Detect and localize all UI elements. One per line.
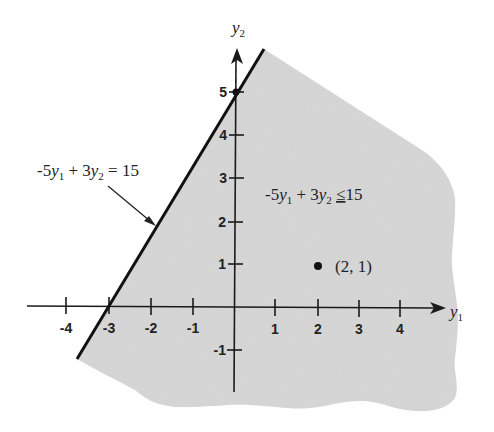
y-tick-label: 1 <box>218 256 226 272</box>
x-tick-label: 2 <box>314 321 322 337</box>
y-axis-label: y2 <box>230 18 245 39</box>
x-tick-label: 3 <box>355 321 363 337</box>
x-tick-label: -3 <box>103 320 116 336</box>
test-point-marker <box>314 262 322 270</box>
y-tick-label: 2 <box>218 214 226 230</box>
y-tick-label: -1 <box>214 342 227 358</box>
x-tick-label: 1 <box>271 321 279 337</box>
half-plane-diagram: -4 -3 -2 -1 1 2 3 4 y1 5 4 3 2 1 -1 y2 -… <box>0 0 494 432</box>
test-point-label: (2, 1) <box>335 257 372 276</box>
shaded-region <box>77 49 458 411</box>
x-tick-label: -2 <box>145 320 158 336</box>
x-tick-label: -4 <box>60 320 73 336</box>
boundary-equation-label: -5y1 + 3y2 = 15 <box>37 161 139 182</box>
y-tick-label: 4 <box>219 127 227 143</box>
y-axis-arrow-icon <box>231 48 243 64</box>
x-axis-label: y1 <box>448 302 463 323</box>
region-inequality-label: -5y1 + 3y2 ≤15 <box>265 185 362 206</box>
x-tick-label: 4 <box>396 321 404 337</box>
y-intercept-marker <box>233 89 240 96</box>
y-tick-label: 5 <box>219 84 227 100</box>
x-tick-label: -1 <box>187 320 200 336</box>
label-pointer-arrow <box>108 186 150 221</box>
y-tick-label: 3 <box>219 170 227 186</box>
